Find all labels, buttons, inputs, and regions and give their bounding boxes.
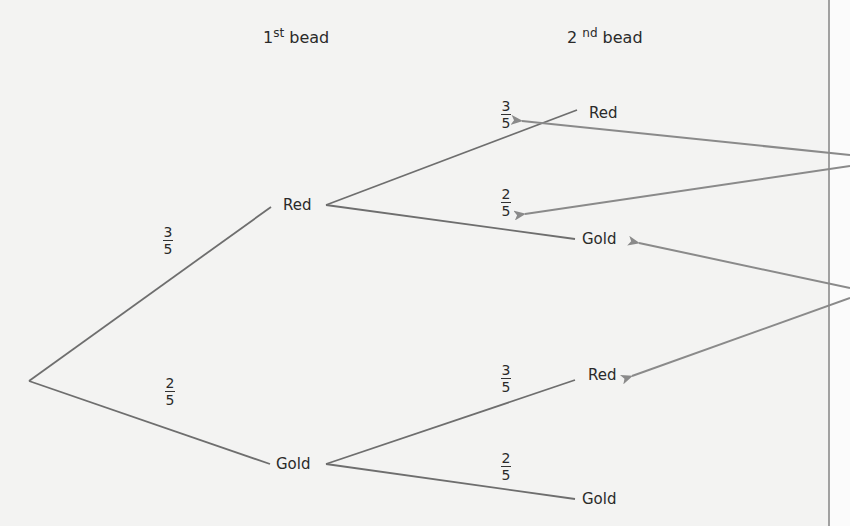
prob-numerator: 3 [501,99,511,115]
node-gold-gold: Gold [582,492,617,507]
header-second-ordinal: 2 [567,28,577,47]
branch-gold-red [326,380,575,464]
header-second-bead: 2 nd bead [567,30,643,46]
prob-numerator: 3 [163,225,173,241]
prob-denominator: 5 [502,203,511,218]
branch-gold-gold [326,464,575,499]
branch-red-red [326,110,577,205]
arrow-to-node-gold-red [632,298,850,376]
prob-numerator: 3 [501,363,511,379]
arrow-to-prob-red-gold [525,166,850,214]
header-first-ordinal: 1 [263,28,273,47]
prob-red-gold: 2 5 [500,187,512,218]
prob-denominator: 5 [166,392,175,407]
prob-gold-red: 3 5 [500,363,512,394]
arrow-to-node-red-gold [639,243,850,288]
header-first-bead: 1st bead [263,30,329,46]
node-red-gold: Gold [582,232,617,247]
prob-denominator: 5 [164,241,173,256]
prob-numerator: 2 [165,376,175,392]
prob-denominator: 5 [502,379,511,394]
header-second-suffix: nd [582,26,597,40]
header-first-suffix: st [273,26,284,40]
prob-numerator: 2 [501,451,511,467]
arrow-to-prob-red-red [522,121,850,155]
node-gold-red: Red [588,368,617,383]
header-second-text: bead [603,28,643,47]
prob-gold-gold: 2 5 [500,451,512,482]
node-red: Red [283,198,312,213]
prob-denominator: 5 [502,115,511,130]
branch-red-gold [326,205,575,239]
prob-numerator: 2 [501,187,511,203]
prob-red-red: 3 5 [500,99,512,130]
header-first-text: bead [289,28,329,47]
prob-denominator: 5 [502,467,511,482]
prob-root-gold: 2 5 [164,376,176,407]
node-gold: Gold [276,457,311,472]
tree-diagram-lines [0,0,850,526]
node-red-red: Red [589,106,618,121]
branch-root-red [29,207,271,381]
prob-root-red: 3 5 [162,225,174,256]
branch-root-gold [29,381,270,464]
